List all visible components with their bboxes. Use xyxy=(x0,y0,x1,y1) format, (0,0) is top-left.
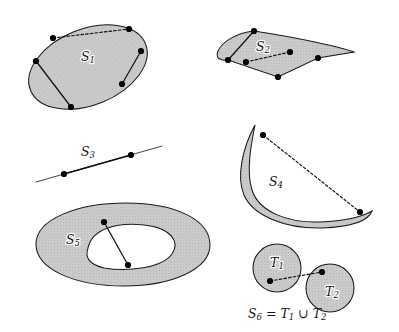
s1-point-c xyxy=(138,48,144,54)
s2-point-left xyxy=(225,57,231,63)
s3-point-a xyxy=(61,171,67,177)
s5-segment xyxy=(104,222,128,265)
figure-canvas: S1 S2 S3 xyxy=(0,0,399,332)
s3-point-b xyxy=(128,152,134,158)
figure-root: S1 S2 S3 xyxy=(0,0,399,332)
s1-point-f xyxy=(68,104,74,110)
s3-segment xyxy=(64,155,131,174)
s2-point-bottom xyxy=(275,74,281,80)
set-s3-group: S3 xyxy=(36,144,162,183)
caption-s6-union: S6 = T1 ∪ T2 xyxy=(248,306,327,322)
s2-point-lower-left xyxy=(243,59,249,65)
s2-point-right xyxy=(315,55,321,61)
set-s6-group: T1 T2 S6 = T1 ∪ T2 xyxy=(248,244,354,322)
s5-shape xyxy=(36,203,210,286)
s1-point-a xyxy=(50,35,56,41)
label-s4: S4 xyxy=(269,174,283,190)
s6-point-in-t2 xyxy=(319,269,325,275)
s2-point-top xyxy=(251,28,257,34)
label-s3: S3 xyxy=(81,144,96,160)
s4-point-b xyxy=(357,209,363,215)
s5-point-a xyxy=(101,219,107,225)
s4-shape xyxy=(241,125,372,228)
s6-point-in-t1 xyxy=(267,278,273,284)
s1-point-d xyxy=(119,81,125,87)
s1-ellipse-shape xyxy=(16,9,159,126)
s2-shape xyxy=(217,31,354,77)
s4-point-a xyxy=(260,132,266,138)
s1-point-e xyxy=(33,58,39,64)
set-s1-group: S1 xyxy=(16,9,159,126)
s1-point-b xyxy=(126,26,132,32)
set-s4-group: S4 xyxy=(241,125,372,228)
set-s2-group: S2 xyxy=(217,28,354,80)
set-s5-group: S5 xyxy=(36,203,210,286)
s5-point-b xyxy=(125,262,131,268)
s2-point-mid-right xyxy=(287,49,293,55)
